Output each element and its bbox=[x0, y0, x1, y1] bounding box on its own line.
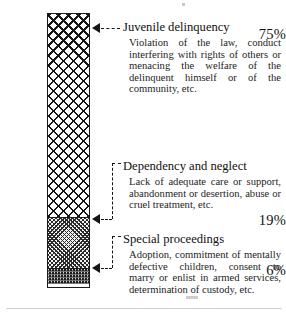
callout-dependency-and-neglect: Dependency and neglect Lack of adequate … bbox=[123, 160, 283, 211]
bar-segment-juvenile-delinquency bbox=[48, 14, 89, 217]
value-label-dependency: 19% bbox=[244, 212, 286, 229]
callout-title-dependency: Dependency and neglect bbox=[123, 160, 283, 173]
leader-line-dependency bbox=[101, 219, 112, 220]
arrow-icon-juvenile bbox=[92, 23, 100, 33]
bracket-vertical-dependency bbox=[112, 163, 113, 219]
arrow-icon-special bbox=[92, 263, 100, 273]
stacked-bar bbox=[47, 13, 90, 288]
callout-juvenile-delinquency: Juvenile delinquency Violation of the la… bbox=[123, 21, 283, 95]
page-rule bbox=[6, 308, 282, 309]
callout-body-special: Adoption, commitment of mentally defecti… bbox=[129, 249, 281, 295]
arrow-icon-dependency bbox=[92, 214, 100, 224]
callout-title-special: Special proceedings bbox=[123, 233, 283, 246]
callout-body-dependency: Lack of adequate care or support, abando… bbox=[129, 176, 281, 211]
callout-title-juvenile: Juvenile delinquency bbox=[123, 21, 283, 34]
chart-page: 75% 19% 6% Juvenile delinquency Violatio… bbox=[0, 0, 286, 316]
bracket-top-special bbox=[112, 236, 121, 237]
bracket-top-dependency bbox=[112, 163, 121, 164]
leader-line-special bbox=[101, 268, 112, 269]
stray-mark-top bbox=[182, 3, 185, 6]
bracket-vertical-special bbox=[112, 236, 113, 268]
bar-segment-special-proceedings bbox=[48, 268, 89, 284]
callout-special-proceedings: Special proceedings Adoption, commitment… bbox=[123, 233, 283, 295]
bar-segment-dependency-and-neglect bbox=[48, 217, 89, 268]
stray-mark-bottom bbox=[186, 296, 198, 299]
callout-body-juvenile: Violation of the law, conduct interferin… bbox=[129, 37, 281, 95]
leader-line-juvenile bbox=[101, 28, 120, 29]
